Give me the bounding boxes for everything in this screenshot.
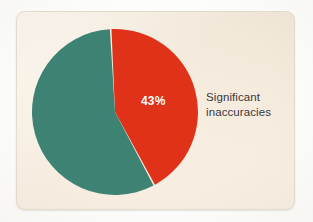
chart-card: 43% Significant inaccuracies bbox=[16, 11, 295, 210]
pie-slice-value-label: 43% bbox=[141, 95, 166, 108]
pie-category-label: Significant inaccuracies bbox=[206, 90, 295, 119]
pie-category-label-line-2: inaccuracies bbox=[206, 105, 295, 120]
pie-chart bbox=[31, 28, 199, 196]
pie-category-label-line-1: Significant bbox=[206, 90, 295, 105]
